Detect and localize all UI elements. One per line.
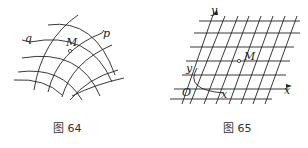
y-axis-label: y	[210, 4, 218, 17]
figure-64: q p M 图 64	[0, 0, 154, 148]
point-m-marker	[237, 59, 240, 62]
figure-65: y x O M y x 图 65	[154, 0, 308, 148]
label-p: p	[103, 27, 110, 40]
origin-label: O	[182, 86, 191, 99]
label-m: M	[65, 36, 78, 49]
x-axis-label: x	[284, 84, 291, 97]
caption-fig-64: 图 64	[53, 119, 82, 135]
caption-fig-65: 图 65	[223, 119, 252, 135]
y-coordinate-label: y	[185, 62, 193, 75]
label-m: M	[243, 50, 256, 63]
label-q: q	[25, 32, 32, 45]
x-coordinate-label: x	[221, 88, 228, 101]
point-m-marker	[68, 49, 71, 52]
